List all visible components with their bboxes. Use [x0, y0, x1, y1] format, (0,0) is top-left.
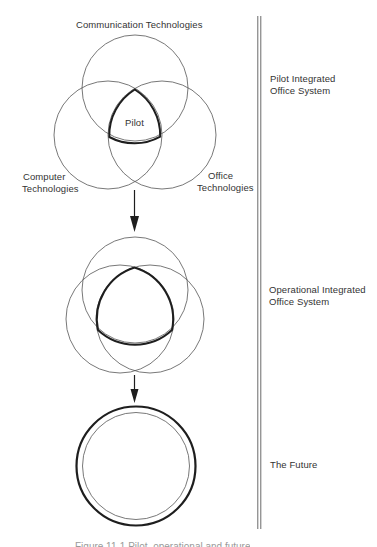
- future-ring: [77, 407, 196, 526]
- future-outer-circle: [77, 407, 196, 526]
- arrow-pilot-to-operational: [130, 190, 139, 232]
- communication-technologies-label: Communication Technologies: [76, 19, 203, 31]
- pilot-center-label: Pilot: [125, 117, 144, 129]
- operational-venn: [66, 237, 204, 373]
- vertical-double-divider: [258, 16, 261, 529]
- figure-caption: Figure 11-1 Pilot, operational and futur…: [75, 540, 250, 547]
- office-technologies-line-1: Office: [197, 170, 254, 182]
- office-technologies-line-2: Technologies: [197, 182, 254, 194]
- operational-stage-title-line-2: Office System: [269, 296, 366, 308]
- office-technologies-label: Office Technologies: [197, 170, 254, 193]
- computer-technologies-line-2: Technologies: [22, 183, 79, 195]
- pilot-stage-title-line-1: Pilot Integrated: [270, 73, 336, 85]
- arrow-operational-to-future: [131, 375, 139, 403]
- pilot-venn: [54, 35, 216, 189]
- pilot-stage-title-line-2: Office System: [270, 85, 336, 97]
- future-stage-title-line-1: The Future: [270, 459, 317, 471]
- future-stage-title: The Future: [270, 459, 317, 471]
- computer-technologies-label: Computer Technologies: [22, 171, 79, 194]
- computer-technologies-line-1: Computer: [22, 171, 79, 183]
- pilot-stage-title: Pilot Integrated Office System: [270, 73, 336, 96]
- operational-stage-title-line-1: Operational Integrated: [269, 284, 366, 296]
- future-inner-circle: [83, 413, 190, 520]
- operational-stage-title: Operational Integrated Office System: [269, 284, 366, 307]
- operational-intersection-outline: [97, 268, 173, 345]
